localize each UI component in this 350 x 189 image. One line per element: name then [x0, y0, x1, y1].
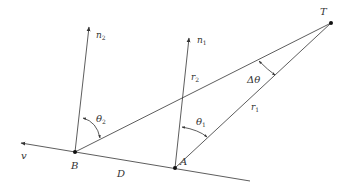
- normal-n2: [75, 27, 89, 152]
- label-r2: r2: [191, 72, 199, 83]
- angle-delta-theta-arc: [259, 61, 275, 75]
- label-delta-theta: Δθ: [246, 74, 260, 85]
- label-D: D: [116, 168, 125, 179]
- angle-theta1-arc: [182, 127, 207, 137]
- baseline-v: [21, 143, 250, 181]
- geometry-diagram: T B A D v n2 n1 r2 r1 θ2 θ1 Δθ: [0, 0, 350, 189]
- point-B: [73, 150, 77, 154]
- label-B: B: [70, 160, 78, 171]
- normal-n1: [175, 38, 189, 168]
- label-theta1: θ1: [196, 116, 206, 128]
- label-n2: n2: [96, 30, 106, 41]
- label-theta2: θ2: [96, 113, 106, 125]
- label-A: A: [179, 156, 187, 167]
- label-v: v: [21, 150, 27, 161]
- label-n1: n1: [197, 35, 207, 46]
- point-A: [173, 166, 177, 170]
- label-T: T: [320, 6, 328, 17]
- label-r1: r1: [251, 102, 259, 113]
- point-T: [329, 21, 333, 25]
